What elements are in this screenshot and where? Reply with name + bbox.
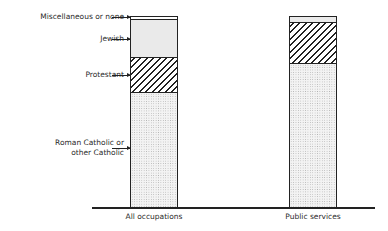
segment-catholic [131, 93, 177, 208]
leader-protestant [112, 75, 126, 76]
label-catholic-line2: other Catholic [71, 148, 124, 157]
segment-protestant [290, 23, 336, 64]
leader-jewish [112, 39, 126, 40]
x-label-all-occupations: All occupations [104, 212, 204, 221]
x-label-public-services: Public services [263, 212, 363, 221]
label-catholic-line1: Roman Catholic or [55, 138, 124, 147]
leader-misc-long [112, 17, 126, 18]
segment-jewish [131, 20, 177, 58]
bar-all-occupations [130, 16, 178, 209]
segment-protestant [131, 58, 177, 93]
segment-catholic [290, 64, 336, 208]
x-axis-baseline [92, 207, 375, 209]
leader-catholic [112, 148, 126, 149]
bar-public-services [289, 16, 337, 209]
